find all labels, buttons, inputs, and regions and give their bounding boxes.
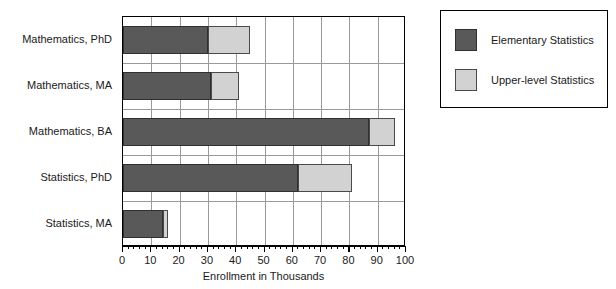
bar-segment [123, 72, 211, 100]
bar-segment [123, 118, 369, 146]
gridline-horizontal [123, 201, 404, 202]
bar-segment [369, 118, 394, 146]
legend-label-elementary: Elementary Statistics [491, 34, 594, 47]
x-tick-minor [297, 246, 298, 249]
x-tick-major [122, 246, 123, 252]
category-label: Mathematics, PhD [0, 33, 112, 45]
bar-segment [208, 26, 250, 54]
x-tick-minor [394, 246, 395, 249]
x-tick-minor [343, 246, 344, 249]
x-tick-minor [139, 246, 140, 249]
bar-row [123, 72, 239, 100]
category-label: Statistics, MA [0, 217, 112, 229]
legend-label-upper-level: Upper-level Statistics [491, 74, 594, 87]
bar-row [123, 26, 250, 54]
x-tick-minor [354, 246, 355, 249]
x-tick-major [292, 246, 293, 252]
x-tick-minor [275, 246, 276, 249]
bar-row [123, 118, 395, 146]
x-tick-minor [201, 246, 202, 249]
x-axis: 0102030405060708090100 Enrollment in Tho… [122, 246, 405, 286]
x-tick-major [207, 246, 208, 252]
x-axis-title: Enrollment in Thousands [122, 270, 405, 283]
x-tick-major [320, 246, 321, 252]
x-tick-minor [218, 246, 219, 249]
bar-segment [123, 164, 298, 192]
x-tick-minor [365, 246, 366, 249]
x-tick-minor [314, 246, 315, 249]
x-tick-minor [269, 246, 270, 249]
x-tick-minor [286, 246, 287, 249]
x-tick-label: 100 [385, 254, 425, 267]
x-tick-minor [133, 246, 134, 249]
x-tick-minor [258, 246, 259, 249]
bar-segment [123, 210, 163, 238]
x-tick-minor [190, 246, 191, 249]
x-tick-minor [145, 246, 146, 249]
gridline-horizontal [123, 109, 404, 110]
x-tick-minor [252, 246, 253, 249]
x-tick-minor [156, 246, 157, 249]
bar-row [123, 164, 352, 192]
x-tick-minor [309, 246, 310, 249]
x-tick-minor [167, 246, 168, 249]
x-tick-major [405, 246, 406, 252]
x-tick-minor [326, 246, 327, 249]
legend-swatch-elementary-icon [455, 29, 477, 51]
x-tick-major [348, 246, 349, 252]
x-tick-minor [128, 246, 129, 249]
x-tick-major [264, 246, 265, 252]
x-tick-minor [162, 246, 163, 249]
bar-row [123, 210, 168, 238]
x-tick-minor [388, 246, 389, 249]
x-tick-minor [280, 246, 281, 249]
legend-entry-elementary: Elementary Statistics [455, 29, 594, 51]
x-tick-minor [303, 246, 304, 249]
stacked-bar-chart-figure: Mathematics, PhDMathematics, MAMathemati… [0, 0, 616, 289]
category-label: Mathematics, BA [0, 125, 112, 137]
category-label: Mathematics, MA [0, 79, 112, 91]
x-tick-minor [213, 246, 214, 249]
bar-segment [298, 164, 352, 192]
x-tick-major [179, 246, 180, 252]
legend-swatch-upper-level-icon [455, 69, 477, 91]
x-tick-minor [331, 246, 332, 249]
gridline-horizontal [123, 63, 404, 64]
x-tick-minor [247, 246, 248, 249]
x-tick-major [235, 246, 236, 252]
x-tick-minor [196, 246, 197, 249]
category-label: Statistics, PhD [0, 171, 112, 183]
chart-legend: Elementary Statistics Upper-level Statis… [440, 10, 608, 108]
x-tick-major [377, 246, 378, 252]
legend-entry-upper-level: Upper-level Statistics [455, 69, 594, 91]
x-tick-major [150, 246, 151, 252]
x-tick-minor [382, 246, 383, 249]
x-tick-minor [224, 246, 225, 249]
x-tick-minor [184, 246, 185, 249]
bar-segment [163, 210, 169, 238]
x-tick-minor [337, 246, 338, 249]
x-tick-minor [230, 246, 231, 249]
bar-segment [211, 72, 239, 100]
x-tick-minor [399, 246, 400, 249]
x-tick-minor [360, 246, 361, 249]
plot-area [122, 16, 405, 246]
gridline-horizontal [123, 155, 404, 156]
x-tick-minor [173, 246, 174, 249]
x-tick-minor [241, 246, 242, 249]
x-tick-minor [371, 246, 372, 249]
bar-segment [123, 26, 208, 54]
